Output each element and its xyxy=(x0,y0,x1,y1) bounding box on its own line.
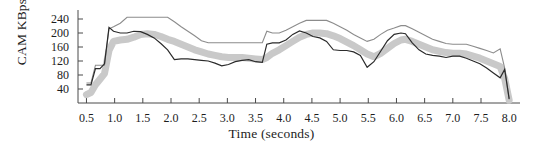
x-tick-label: 1.5 xyxy=(135,111,150,125)
x-tick-label: 0.5 xyxy=(79,111,94,125)
x-tick-label: 1.0 xyxy=(107,111,122,125)
y-tick-label: 160 xyxy=(51,40,69,54)
x-tick-label: 7.0 xyxy=(445,111,460,125)
y-tick-label: 200 xyxy=(51,26,69,40)
x-tick-marks xyxy=(86,98,509,103)
x-tick-label: 6.5 xyxy=(417,111,432,125)
series-line-upper-envelope xyxy=(86,17,509,99)
x-tick-label: 6.0 xyxy=(389,111,404,125)
x-tick-label: 7.5 xyxy=(474,111,489,125)
x-tick-label: 4.0 xyxy=(276,111,291,125)
x-tick-label: 5.5 xyxy=(361,111,376,125)
x-tick-label: 8.0 xyxy=(502,111,517,125)
x-tick-label: 5.0 xyxy=(333,111,348,125)
y-tick-marks xyxy=(78,19,83,89)
y-tick-labels: 4080120160200240 xyxy=(51,12,69,96)
x-tick-label: 3.5 xyxy=(248,111,263,125)
x-axis-label: Time (seconds) xyxy=(0,126,543,142)
x-tick-labels: 0.51.01.52.02.53.03.54.04.55.05.56.06.57… xyxy=(79,111,517,125)
y-tick-label: 240 xyxy=(51,12,69,26)
x-tick-label: 2.5 xyxy=(192,111,207,125)
y-tick-label: 120 xyxy=(51,54,69,68)
data-series-layer xyxy=(86,17,509,100)
y-tick-label: 40 xyxy=(57,82,69,96)
y-tick-label: 80 xyxy=(57,68,69,82)
x-tick-label: 3.0 xyxy=(220,111,235,125)
x-tick-label: 4.5 xyxy=(304,111,319,125)
x-tick-label: 2.0 xyxy=(164,111,179,125)
chart-figure: CAM KBps 4080120160200240 0.51.01.52.02.… xyxy=(0,0,543,148)
